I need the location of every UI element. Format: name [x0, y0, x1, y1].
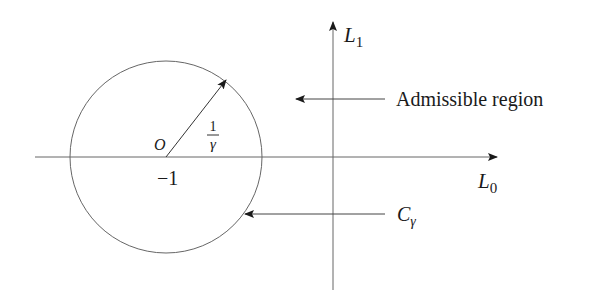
vertical-axis-label: L1 [343, 23, 363, 50]
c-gamma-label: Cγ [397, 203, 416, 229]
horizontal-axis-label: L0 [477, 169, 497, 196]
radius-denominator: γ [210, 136, 217, 152]
diagram-canvas: L1 L0 Admissible region Cγ O −1 1 γ [0, 0, 608, 303]
radius-arrow [166, 80, 226, 157]
center-value-label: −1 [157, 167, 178, 189]
center-label-o: O [154, 136, 166, 153]
radius-numerator: 1 [210, 119, 217, 134]
diagram-svg: L1 L0 Admissible region Cγ O −1 1 γ [0, 0, 608, 303]
admissible-region-label: Admissible region [396, 88, 543, 111]
